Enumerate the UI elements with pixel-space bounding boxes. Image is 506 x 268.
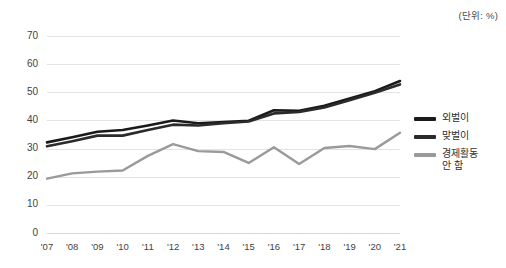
y-axis-tick-label: 20 bbox=[27, 170, 39, 181]
x-axis-tick-label: '14 bbox=[217, 241, 229, 252]
x-axis-tick-label: '10 bbox=[116, 241, 128, 252]
series-line-맞벌이 bbox=[47, 84, 400, 146]
x-axis-tick-label: '16 bbox=[268, 241, 280, 252]
legend-swatch-icon bbox=[414, 153, 436, 157]
legend-swatch-icon bbox=[414, 135, 436, 139]
x-axis-tick-label: '12 bbox=[167, 241, 179, 252]
legend-item[interactable]: 맞벌이 bbox=[414, 130, 506, 142]
legend-item[interactable]: 경제활동 안 함 bbox=[414, 148, 506, 172]
x-axis-tick-label: '17 bbox=[293, 241, 305, 252]
x-axis-tick-label: '11 bbox=[142, 241, 154, 252]
y-axis-tick-label: 70 bbox=[27, 30, 39, 41]
y-axis-tick-label: 40 bbox=[27, 114, 39, 125]
x-axis-tick-label: '21 bbox=[394, 241, 406, 252]
y-axis-tick-label: 30 bbox=[27, 142, 39, 153]
legend-label: 외벌이 bbox=[442, 112, 469, 124]
x-axis-tick-label: '13 bbox=[192, 241, 204, 252]
chart-legend: 외벌이맞벌이경제활동 안 함 bbox=[414, 112, 506, 178]
x-axis-tick-label: '08 bbox=[66, 241, 78, 252]
series-line-외벌이 bbox=[47, 81, 400, 142]
legend-label: 맞벌이 bbox=[442, 130, 469, 142]
series-line-경제활동 안 함 bbox=[47, 133, 400, 179]
x-axis-tick-label: '15 bbox=[243, 241, 255, 252]
x-axis-tick-label: '20 bbox=[369, 241, 381, 252]
y-axis-tick-label: 10 bbox=[27, 198, 39, 209]
x-axis-tick-label: '07 bbox=[41, 241, 53, 252]
y-axis-tick-label: 50 bbox=[27, 86, 39, 97]
y-axis-tick-label: 0 bbox=[32, 227, 38, 238]
legend-label: 경제활동 안 함 bbox=[442, 148, 478, 172]
y-axis-tick-label: 60 bbox=[27, 58, 39, 69]
x-axis-tick-label: '19 bbox=[343, 241, 355, 252]
x-axis-tick-label: '09 bbox=[91, 241, 103, 252]
legend-swatch-icon bbox=[414, 117, 436, 121]
legend-item[interactable]: 외벌이 bbox=[414, 112, 506, 124]
x-axis-tick-label: '18 bbox=[318, 241, 330, 252]
chart-container: (단위: %) 010203040506070'07'08'09'10'11'1… bbox=[0, 0, 506, 268]
